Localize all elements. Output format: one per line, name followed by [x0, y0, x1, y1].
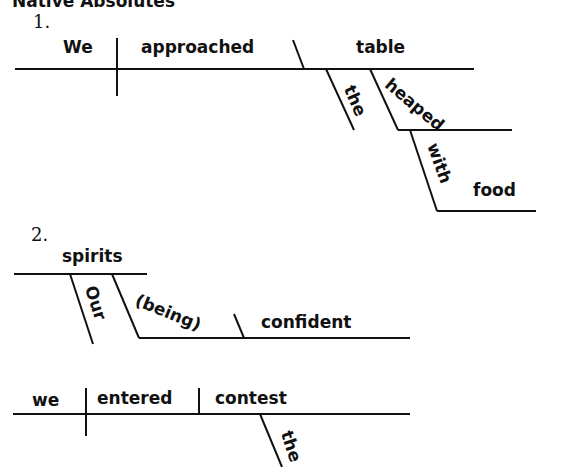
word-entered: entered: [97, 388, 172, 408]
word-verb: approached: [141, 37, 254, 57]
word-subject: We: [63, 37, 93, 57]
word-object: table: [356, 37, 405, 57]
word-we: we: [32, 390, 59, 410]
word-contest: contest: [215, 388, 287, 408]
word-spirits: spirits: [62, 246, 123, 266]
word-food: food: [473, 180, 516, 200]
word-confident: confident: [261, 312, 351, 332]
diagram-number-1: 1.: [33, 11, 50, 32]
diagram-number-2: 2.: [31, 224, 48, 245]
